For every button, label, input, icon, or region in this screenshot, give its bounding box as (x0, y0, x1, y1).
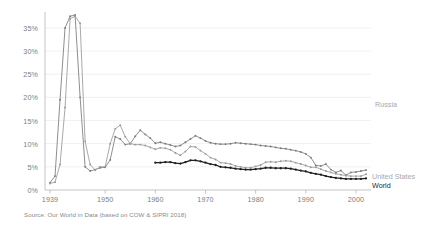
data-point (295, 150, 297, 152)
data-point (134, 135, 136, 137)
data-point (285, 160, 287, 162)
data-point (244, 168, 246, 170)
data-point (109, 143, 111, 145)
data-point (285, 167, 287, 169)
data-point (164, 147, 166, 149)
data-point (260, 168, 262, 170)
data-point (189, 159, 191, 161)
x-tick-label: 1970 (185, 195, 225, 204)
data-point (79, 22, 81, 24)
data-point (350, 178, 352, 180)
y-tick-label: 10% (12, 140, 38, 149)
data-point (280, 147, 282, 149)
data-point (270, 146, 272, 148)
data-point (270, 161, 272, 163)
data-point (300, 169, 302, 171)
data-point (300, 151, 302, 153)
data-point (249, 168, 251, 170)
data-point (89, 170, 91, 172)
data-point (174, 162, 176, 164)
data-point (109, 159, 111, 161)
data-point (225, 143, 227, 145)
data-point (330, 171, 332, 173)
data-point (205, 140, 207, 142)
data-point (295, 162, 297, 164)
data-point (190, 146, 192, 148)
data-point (290, 149, 292, 151)
data-point (280, 160, 282, 162)
data-point (260, 145, 262, 147)
data-point (310, 166, 312, 168)
data-point (215, 143, 217, 145)
data-point (184, 141, 186, 143)
data-point (99, 166, 101, 168)
data-point (290, 160, 292, 162)
data-point (365, 169, 367, 171)
data-point (59, 99, 61, 101)
series-label-united-states: United States (372, 172, 415, 181)
data-point (159, 141, 161, 143)
data-point (325, 170, 327, 172)
data-point (320, 174, 322, 176)
data-point (350, 175, 352, 177)
data-point (305, 170, 307, 172)
data-point (234, 168, 236, 170)
data-point (204, 162, 206, 164)
data-point (265, 167, 267, 169)
data-point (104, 166, 106, 168)
data-point (190, 138, 192, 140)
data-point (79, 96, 81, 98)
data-point (365, 177, 367, 179)
data-point (250, 143, 252, 145)
data-point (224, 166, 226, 168)
data-point (159, 147, 161, 149)
data-point (184, 151, 186, 153)
data-point (270, 167, 272, 169)
data-point (54, 175, 56, 177)
series-label-russia: Russia (375, 100, 397, 109)
data-point (114, 136, 116, 138)
data-point (139, 144, 141, 146)
data-point (260, 164, 262, 166)
data-point (114, 128, 116, 130)
data-point (315, 166, 317, 168)
data-point (325, 163, 327, 165)
x-tick-label: 1950 (85, 195, 125, 204)
y-tick-label: 25% (12, 70, 38, 79)
data-point (144, 133, 146, 135)
data-point (320, 165, 322, 167)
data-point (84, 140, 86, 142)
data-point (210, 142, 212, 144)
data-point (54, 181, 56, 183)
data-point (335, 173, 337, 175)
data-point (245, 167, 247, 169)
data-point (200, 137, 202, 139)
data-point (305, 165, 307, 167)
data-point (305, 153, 307, 155)
data-point (285, 148, 287, 150)
data-point (255, 165, 257, 167)
data-point (59, 164, 61, 166)
y-tick-label: 35% (12, 24, 38, 33)
data-point (89, 164, 91, 166)
y-tick-label: 30% (12, 47, 38, 56)
data-point (310, 157, 312, 159)
data-point (235, 142, 237, 144)
data-point (230, 143, 232, 145)
data-point (134, 144, 136, 146)
x-tick-label: 1980 (236, 195, 276, 204)
data-point (229, 167, 231, 169)
data-point (275, 161, 277, 163)
data-point (340, 170, 342, 172)
data-point (174, 152, 176, 154)
x-tick-label: 1990 (286, 195, 326, 204)
data-point (345, 175, 347, 177)
data-point (84, 166, 86, 168)
corner-mark (420, 228, 424, 232)
data-point (64, 107, 66, 109)
data-point (330, 169, 332, 171)
data-point (169, 161, 171, 163)
data-point (164, 143, 166, 145)
data-point (275, 146, 277, 148)
data-point (149, 137, 151, 139)
